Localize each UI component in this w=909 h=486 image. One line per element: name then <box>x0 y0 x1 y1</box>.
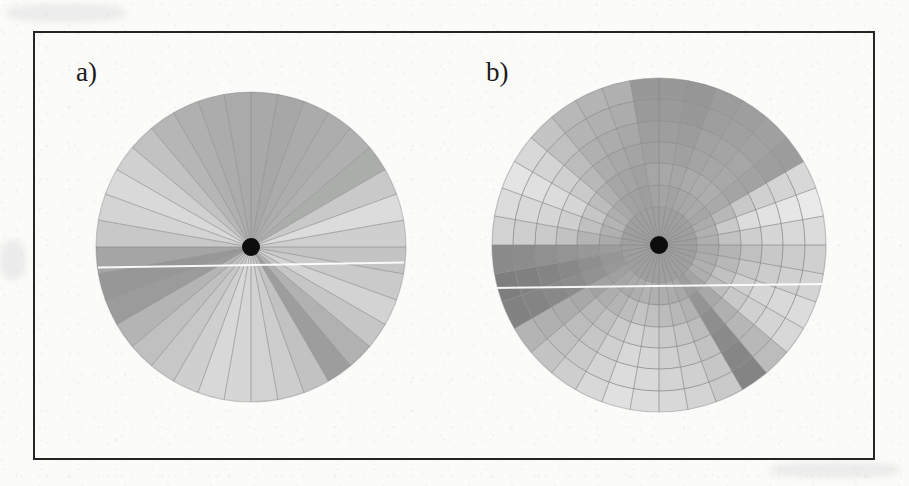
ring-cell <box>492 216 515 245</box>
ring-cell <box>781 245 805 270</box>
ring-cell <box>634 367 659 391</box>
ring-cell <box>659 78 688 101</box>
center-hub-dot <box>650 236 668 254</box>
figure-root: a) b) <box>0 0 909 486</box>
ring-cell <box>513 245 537 270</box>
ring-cell <box>659 367 684 391</box>
panel-a-label: a) <box>76 59 97 86</box>
ring-cell <box>492 245 515 274</box>
ring-cell <box>659 389 688 412</box>
ring-cell <box>803 216 826 245</box>
panel-b-label: b) <box>486 59 509 86</box>
ring-cell <box>803 245 826 274</box>
panel-b-polar-ring-diagram <box>0 0 909 486</box>
ring-cell <box>634 99 659 123</box>
ring-cell <box>630 78 659 101</box>
ring-cell <box>659 99 684 123</box>
ring-cell <box>781 220 805 245</box>
ring-cell <box>630 389 659 412</box>
ring-cell <box>513 220 537 245</box>
